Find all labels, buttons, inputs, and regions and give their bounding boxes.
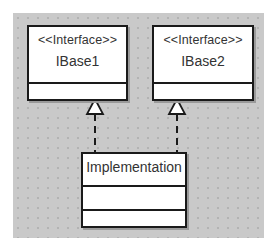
class-box-implementation[interactable]: Implementation [81,152,187,228]
class-box-ibase1[interactable]: <<Interface>> IBase1 [27,25,128,101]
class-name: IBase2 [154,53,252,69]
class-header: Implementation [83,159,185,187]
class-header: <<Interface>> IBase2 [154,33,252,84]
operations-section [83,211,185,231]
attributes-section [83,187,185,211]
attributes-section [29,84,126,105]
class-name: IBase1 [29,53,126,69]
realization-ibase2 [169,99,185,153]
class-box-ibase2[interactable]: <<Interface>> IBase2 [152,25,254,101]
class-header: <<Interface>> IBase1 [29,33,126,84]
stereotype-label: <<Interface>> [29,33,126,47]
attributes-section [154,84,252,105]
realization-ibase1 [87,99,103,153]
stereotype-label: <<Interface>> [154,33,252,47]
class-name: Implementation [83,159,185,175]
